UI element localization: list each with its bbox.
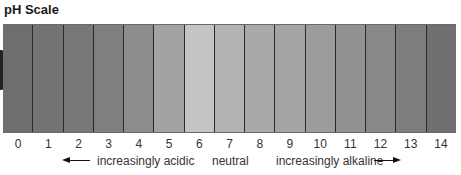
- ph-segment-6: [184, 25, 214, 132]
- ph-segment-13: [395, 25, 425, 132]
- ph-segment-14: [426, 25, 456, 132]
- ph-segment-8: [244, 25, 274, 132]
- ph-segment-11: [335, 25, 365, 132]
- ph-segment-2: [63, 25, 93, 132]
- label-increasingly-acidic: increasingly acidic: [97, 154, 194, 168]
- ph-tick-12: 12: [365, 137, 395, 151]
- ph-tick-1: 1: [33, 137, 63, 151]
- ph-tick-10: 10: [305, 137, 335, 151]
- ph-tick-7: 7: [214, 137, 244, 151]
- ph-tick-2: 2: [63, 137, 93, 151]
- ph-segment-0: [3, 25, 32, 132]
- ph-tick-3: 3: [94, 137, 124, 151]
- ph-tick-13: 13: [396, 137, 426, 151]
- ph-tick-9: 9: [275, 137, 305, 151]
- ph-segment-3: [93, 25, 123, 132]
- ph-segment-10: [305, 25, 335, 132]
- ph-segment-4: [123, 25, 153, 132]
- ph-segment-1: [32, 25, 62, 132]
- ph-segment-9: [274, 25, 304, 132]
- ph-tick-labels: 01234567891011121314: [3, 137, 456, 151]
- arrow-left-line: [68, 160, 90, 161]
- ph-segment-5: [153, 25, 183, 132]
- label-increasingly-alkaline: increasingly alkaline: [276, 154, 383, 168]
- ph-tick-4: 4: [124, 137, 154, 151]
- ph-tick-6: 6: [184, 137, 214, 151]
- ph-tick-11: 11: [335, 137, 365, 151]
- arrow-right-line: [374, 160, 394, 161]
- ph-tick-0: 0: [3, 137, 33, 151]
- ph-scale-bar: [3, 24, 456, 133]
- ph-tick-5: 5: [154, 137, 184, 151]
- diagram-title: pH Scale: [4, 2, 59, 17]
- arrow-right-icon: [393, 157, 401, 163]
- ph-segment-12: [365, 25, 395, 132]
- ph-segment-7: [214, 25, 244, 132]
- ph-tick-8: 8: [245, 137, 275, 151]
- label-neutral: neutral: [212, 154, 249, 168]
- ph-tick-14: 14: [426, 137, 456, 151]
